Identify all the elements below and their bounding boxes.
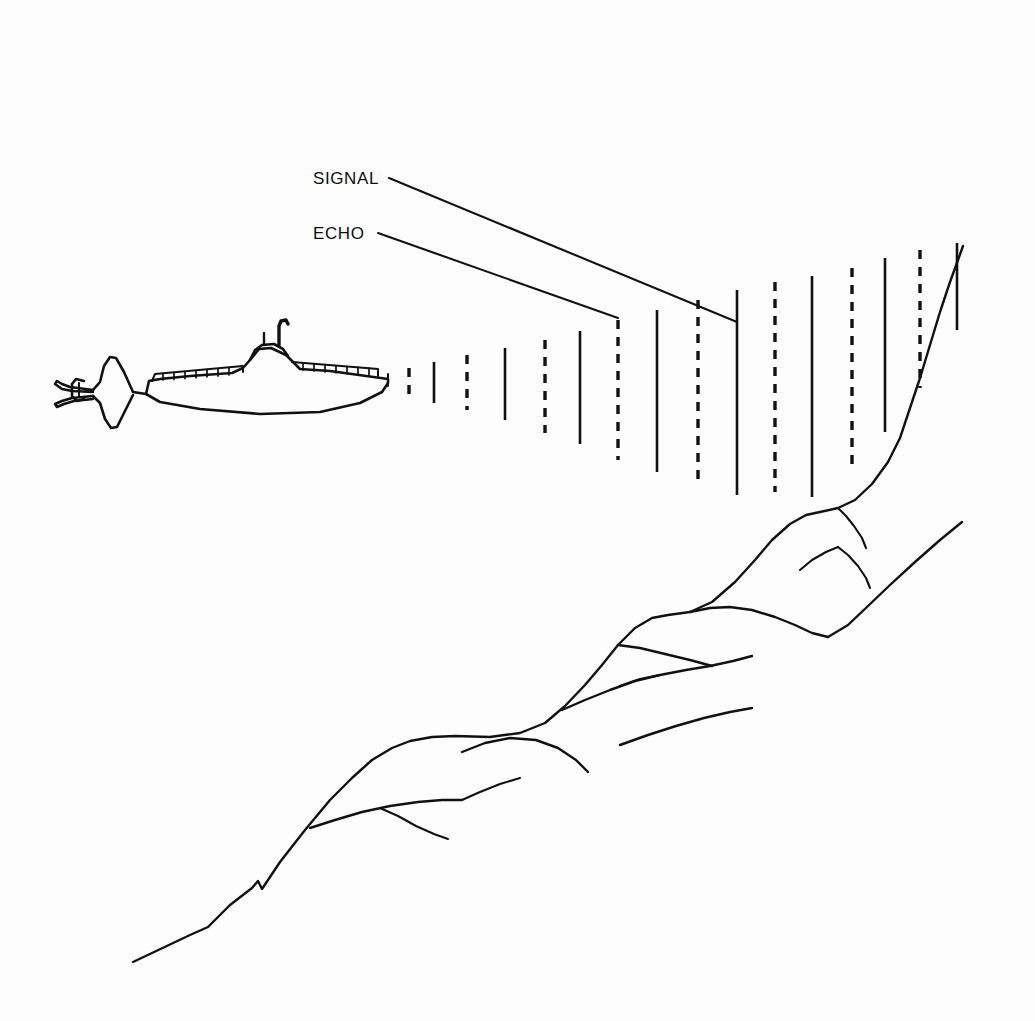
echo-label: ECHO — [313, 224, 365, 243]
diagram-canvas: SIGNAL ECHO — [0, 0, 1035, 1021]
sonar-diagram: SIGNAL ECHO — [0, 0, 1035, 1021]
signal-label: SIGNAL — [313, 169, 379, 188]
diagram-background — [0, 0, 1035, 1021]
